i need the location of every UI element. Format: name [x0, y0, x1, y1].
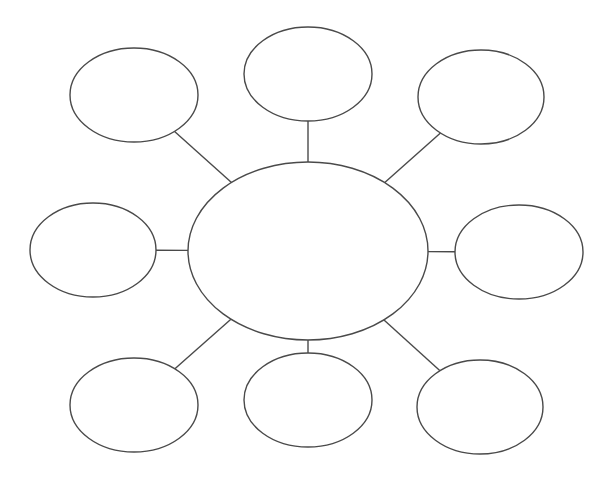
- ellipse-top[interactable]: [244, 27, 372, 121]
- connector-top-left: [175, 131, 232, 182]
- ellipse-right[interactable]: [455, 205, 583, 299]
- bubble-map-diagram: [0, 0, 612, 499]
- bubble-nodes: [30, 27, 583, 454]
- bubble-right[interactable]: [455, 205, 583, 299]
- ellipse-bottom-left[interactable]: [70, 358, 198, 452]
- ellipse-top-left[interactable]: [70, 48, 198, 142]
- ellipse-left[interactable]: [30, 203, 156, 297]
- bubble-left[interactable]: [30, 203, 156, 297]
- connector-bottom-left: [175, 319, 231, 369]
- center-bubble[interactable]: [188, 162, 428, 340]
- ellipse-top-right[interactable]: [418, 50, 544, 144]
- bubble-top-left[interactable]: [70, 48, 198, 142]
- bubble-top[interactable]: [244, 27, 372, 121]
- ellipse-bottom[interactable]: [244, 353, 372, 447]
- center-ellipse[interactable]: [188, 162, 428, 340]
- connector-top-right: [385, 133, 441, 183]
- bubble-bottom-right[interactable]: [417, 360, 543, 454]
- connector-bottom-right: [384, 320, 440, 371]
- ellipse-bottom-right[interactable]: [417, 360, 543, 454]
- bubble-top-right[interactable]: [418, 50, 544, 144]
- bubble-bottom[interactable]: [244, 353, 372, 447]
- bubble-bottom-left[interactable]: [70, 358, 198, 452]
